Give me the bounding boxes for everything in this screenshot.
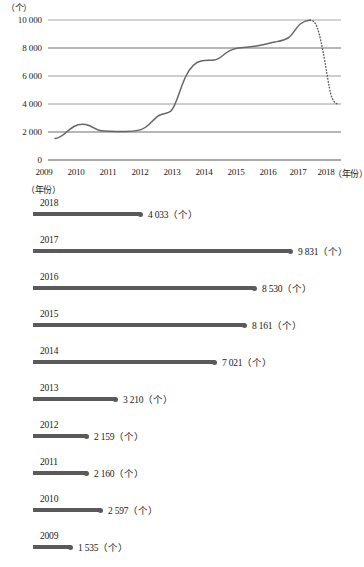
line-series-dotted: [310, 20, 338, 104]
bar-end-cap: [242, 323, 247, 328]
bar-row-2011: 2011 2 160（个）: [0, 457, 364, 494]
bar-end-cap: [288, 249, 293, 254]
bar-row-2018: 2018 4 033（个）: [0, 198, 364, 235]
bar-fill: [33, 323, 245, 327]
y-axis-unit-label: （个）: [6, 1, 32, 14]
y-tick-6000: 6 000: [0, 71, 42, 81]
line-chart: （个） 10 000 8 000 6 000 4 000 2 000 0 200…: [0, 0, 364, 196]
y-tick-8000: 8 000: [0, 43, 42, 53]
bar-row-2009: 2009 1 535（个）: [0, 531, 364, 567]
line-series-solid: [55, 20, 310, 138]
bar-value-label: 2 597（个）: [108, 503, 158, 517]
x-axis-unit-label: （年份）: [333, 167, 364, 180]
bar-end-cap: [68, 545, 73, 550]
x-tick-2015: 2015: [218, 167, 254, 177]
bar-fill: [33, 212, 141, 216]
bar-end-cap: [84, 434, 89, 439]
bar-value-label: 1 535（个）: [78, 540, 128, 554]
bar-end-cap: [138, 212, 143, 217]
bar-row-2015: 2015 8 161（个）: [0, 309, 364, 346]
bar-year-label: 2017: [40, 235, 58, 245]
bar-year-label: 2010: [40, 494, 58, 504]
bar-end-cap: [212, 360, 217, 365]
x-tick-2009: 2009: [26, 167, 62, 177]
bar-fill: [33, 360, 215, 364]
x-tick-2011: 2011: [90, 167, 126, 177]
x-tick-2012: 2012: [122, 167, 158, 177]
x-tick-2013: 2013: [154, 167, 190, 177]
x-axis-unit-label-secondary: （年份）: [26, 183, 60, 196]
bar-year-label: 2016: [40, 272, 58, 282]
bar-row-2016: 2016 8 530（个）: [0, 272, 364, 309]
bar-year-label: 2009: [40, 531, 58, 541]
bar-end-cap: [84, 471, 89, 476]
bar-value-label: 4 033（个）: [148, 207, 198, 221]
bar-row-2010: 2010 2 597（个）: [0, 494, 364, 531]
bar-value-label: 7 021（个）: [222, 355, 272, 369]
bar-end-cap: [252, 286, 257, 291]
bar-value-label: 8 530（个）: [262, 281, 312, 295]
bar-value-label: 2 160（个）: [94, 466, 144, 480]
horizontal-bar-chart: 2018 4 033（个） 2017 9 831（个） 2016 8 530（个…: [0, 196, 364, 567]
bar-end-cap: [98, 508, 103, 513]
bar-fill: [33, 397, 116, 401]
bar-year-label: 2011: [40, 457, 58, 467]
bar-fill: [33, 249, 291, 253]
y-tick-10000: 10 000: [0, 15, 42, 25]
bar-year-label: 2018: [40, 198, 58, 208]
bar-end-cap: [113, 397, 118, 402]
bar-value-label: 9 831（个）: [298, 244, 348, 258]
bar-value-label: 8 161（个）: [252, 318, 302, 332]
bar-year-label: 2013: [40, 383, 58, 393]
bar-value-label: 3 210（个）: [123, 392, 173, 406]
bar-fill: [33, 434, 87, 438]
x-tick-2014: 2014: [186, 167, 222, 177]
bar-row-2012: 2012 2 159（个）: [0, 420, 364, 457]
x-tick-2010: 2010: [58, 167, 94, 177]
bar-row-2017: 2017 9 831（个）: [0, 235, 364, 272]
gridlines: [48, 20, 341, 160]
bar-year-label: 2015: [40, 309, 58, 319]
y-tick-2000: 2 000: [0, 127, 42, 137]
bar-year-label: 2012: [40, 420, 58, 430]
bar-year-label: 2014: [40, 346, 58, 356]
bar-fill: [33, 508, 101, 512]
bar-fill: [33, 471, 87, 475]
bar-fill: [33, 545, 71, 549]
bar-row-2013: 2013 3 210（个）: [0, 383, 364, 420]
y-tick-4000: 4 000: [0, 99, 42, 109]
y-tick-0: 0: [0, 155, 42, 165]
bar-fill: [33, 286, 255, 290]
bar-value-label: 2 159（个）: [94, 429, 144, 443]
bar-row-2014: 2014 7 021（个）: [0, 346, 364, 383]
